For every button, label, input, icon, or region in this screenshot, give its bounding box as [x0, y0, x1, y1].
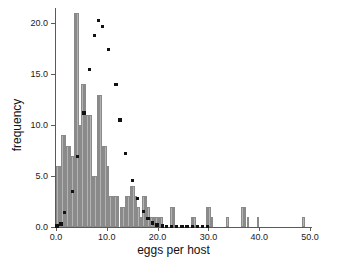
- scatter-point: [180, 225, 183, 228]
- x-tick: [310, 227, 311, 231]
- y-tick: [51, 227, 55, 228]
- x-tick-label: 40.0: [250, 232, 268, 242]
- scatter-point: [161, 224, 164, 227]
- x-tick-label: 10.0: [98, 232, 116, 242]
- scatter-point: [55, 224, 58, 227]
- scatter-point: [101, 25, 104, 28]
- scatter-point: [155, 223, 158, 226]
- scatter-point: [206, 225, 209, 228]
- x-axis-label: eggs per host: [0, 243, 347, 257]
- scatter-point: [107, 48, 110, 51]
- scatter-point: [93, 34, 96, 37]
- scatter-point: [114, 83, 117, 86]
- scatter-point: [97, 19, 100, 22]
- y-tick-label: 0.0: [18, 222, 48, 232]
- scatter-point: [170, 225, 173, 228]
- scatter-point: [201, 225, 204, 228]
- x-tick-label: 50.0: [301, 232, 319, 242]
- histogram-bar: [247, 217, 250, 227]
- y-tick: [51, 176, 55, 177]
- histogram-figure: frequency 0.010.020.030.040.050.00.05.01…: [0, 0, 347, 264]
- y-tick: [51, 74, 55, 75]
- scatter-point: [88, 68, 91, 71]
- scatter-point: [146, 217, 149, 220]
- scatter-point: [185, 225, 188, 228]
- scatter-point: [131, 179, 134, 182]
- plot-area: [56, 8, 310, 227]
- x-axis-line: [56, 227, 312, 228]
- scatter-point: [71, 190, 74, 193]
- x-tick-label: 30.0: [200, 232, 218, 242]
- scatter-point: [118, 118, 121, 121]
- histogram-bar: [302, 217, 305, 227]
- scatter-point: [175, 225, 178, 228]
- x-tick: [56, 227, 57, 231]
- x-tick-label: 0.0: [50, 232, 63, 242]
- x-tick: [259, 227, 260, 231]
- x-tick: [158, 227, 159, 231]
- y-tick-label: 10.0: [18, 120, 48, 130]
- y-tick-label: 20.0: [18, 18, 48, 28]
- scatter-point: [82, 111, 85, 114]
- scatter-point: [165, 225, 168, 228]
- scatter-point: [59, 222, 62, 225]
- scatter-point: [124, 152, 127, 155]
- y-tick: [51, 125, 55, 126]
- x-tick-label: 20.0: [149, 232, 167, 242]
- scatter-point: [63, 211, 66, 214]
- histogram-bar: [226, 217, 229, 227]
- scatter-point: [191, 225, 194, 228]
- y-tick-label: 5.0: [18, 171, 48, 181]
- scatter-point: [76, 155, 79, 158]
- histogram-bar: [257, 217, 260, 227]
- histogram-bar: [211, 217, 214, 227]
- scatter-point: [142, 210, 145, 213]
- y-tick: [51, 23, 55, 24]
- scatter-point: [136, 197, 139, 200]
- scatter-point: [196, 225, 199, 228]
- y-tick-label: 15.0: [18, 69, 48, 79]
- x-tick: [107, 227, 108, 231]
- scatter-point: [151, 221, 154, 224]
